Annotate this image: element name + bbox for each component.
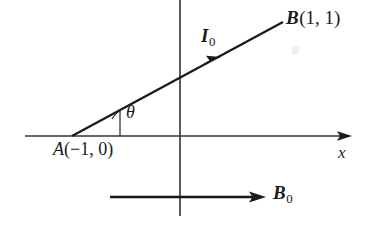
field-subscript: 0 — [286, 191, 293, 206]
point-a-symbol: A — [53, 139, 64, 159]
x-axis-label: x — [338, 144, 346, 161]
current-arrowhead — [203, 56, 221, 63]
point-b-label: B(1, 1) — [286, 8, 340, 27]
current-label: I0 — [201, 26, 215, 49]
point-a-coordinates: (−1, 0) — [64, 139, 113, 159]
scan-artifact — [292, 46, 299, 55]
point-a-label: A(−1, 0) — [53, 140, 113, 158]
angle-label: θ — [126, 103, 135, 121]
diagram-canvas — [0, 0, 367, 235]
field-label: B0 — [273, 183, 293, 206]
point-b-coordinates: (1, 1) — [299, 7, 340, 28]
physics-diagram: B(1, 1) A(−1, 0) I0 θ x B0 — [0, 0, 367, 235]
current-subscript: 0 — [208, 34, 215, 49]
field-symbol: B — [273, 182, 286, 203]
current-line — [72, 22, 283, 136]
point-b-symbol: B — [286, 7, 299, 28]
